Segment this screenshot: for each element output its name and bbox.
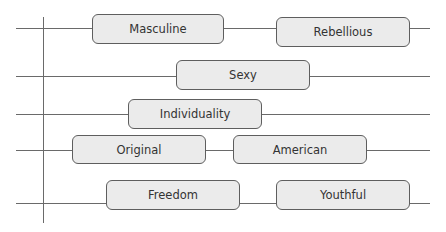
vertical-axis-line (43, 17, 44, 223)
node-original: Original (72, 135, 206, 164)
node-individuality: Individuality (128, 99, 262, 129)
node-rebellious: Rebellious (276, 17, 410, 47)
node-sexy: Sexy (176, 60, 310, 90)
node-masculine: Masculine (92, 14, 224, 44)
node-youthful: Youthful (276, 180, 410, 210)
node-freedom: Freedom (106, 180, 240, 210)
node-american: American (233, 135, 367, 164)
